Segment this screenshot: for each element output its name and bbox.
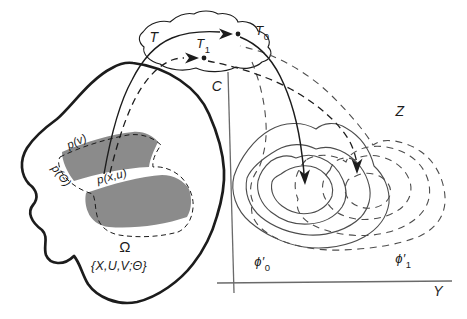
arrowhead-phi1 [352,159,363,175]
t1-label: T1 [196,37,210,53]
dashed-contour-2 [295,146,429,235]
omega-label: Ω [119,239,130,254]
c-axis-label: C [212,79,222,93]
point-t0 [236,32,241,37]
figure: T T0 T1 C Z Y Ω {X,U,V;Θ} p(v) p(Θ) p(x,… [0,0,467,319]
dashed-contour-inner [345,173,390,208]
dashed-contour-3 [323,156,411,220]
diagram-canvas [0,0,467,319]
y-axis-line [217,281,452,283]
t0-label: T0 [255,24,269,40]
phi0-label: ϕ′0 [254,255,270,271]
z-region-label: Z [396,104,405,118]
point-t1 [202,56,207,61]
solid-contour-outer [233,123,389,248]
phi1-label: ϕ′1 [395,252,411,268]
t-region-label: T [150,30,159,44]
y-axis-label: Y [433,284,443,298]
omega-set-label: {X,U,V;Θ} [91,260,147,273]
